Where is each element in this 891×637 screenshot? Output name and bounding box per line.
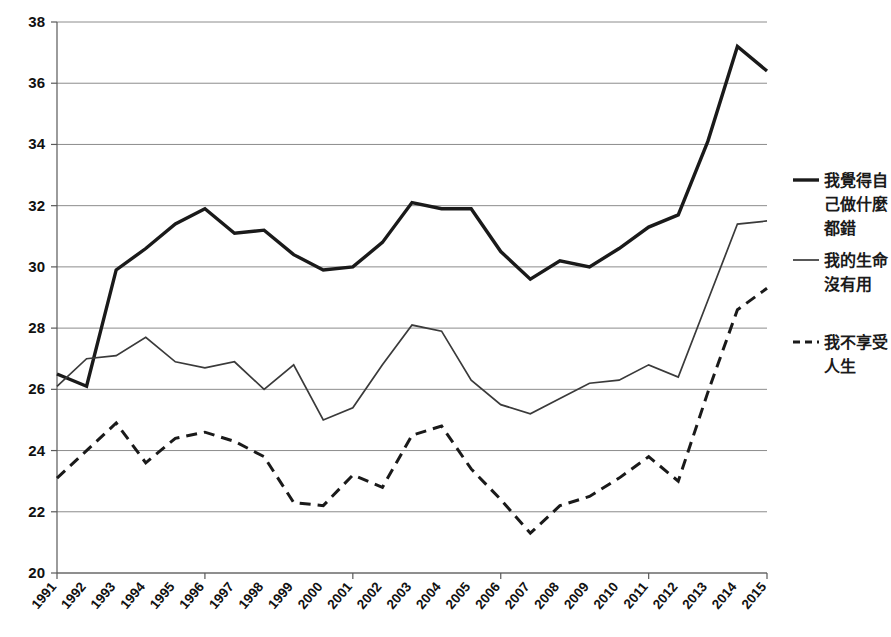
x-tick-label: 1999 bbox=[265, 579, 296, 612]
legend-label-2: 我的生命 bbox=[824, 251, 889, 270]
x-tick-label: 2014 bbox=[709, 579, 740, 612]
axes bbox=[51, 22, 767, 579]
series-line-2 bbox=[57, 221, 767, 420]
x-tick-label: 1997 bbox=[206, 579, 237, 612]
x-tick-label: 1996 bbox=[176, 579, 207, 612]
x-tick-label: 1994 bbox=[117, 579, 148, 612]
x-tick-label: 2005 bbox=[443, 579, 474, 612]
x-tick-label: 2006 bbox=[472, 579, 503, 612]
x-tick-label: 2008 bbox=[531, 579, 562, 612]
x-tick-label: 2015 bbox=[738, 579, 769, 612]
data-series bbox=[57, 46, 767, 533]
x-tick-label: 1992 bbox=[58, 579, 89, 612]
x-tick-label: 2013 bbox=[679, 579, 710, 612]
y-axis-tick-labels: 20222426283032343638 bbox=[28, 13, 45, 581]
legend-label-1: 己做什麼 bbox=[824, 195, 888, 214]
x-axis-tick-labels: 1991199219931994199519961997199819992000… bbox=[28, 579, 769, 612]
x-tick-label: 2010 bbox=[591, 579, 622, 612]
x-tick-label: 2009 bbox=[561, 579, 592, 612]
x-tick-label: 2012 bbox=[650, 579, 681, 612]
x-tick-label: 2002 bbox=[354, 579, 385, 612]
y-tick-label: 20 bbox=[28, 564, 45, 581]
legend-label-3: 人生 bbox=[824, 357, 856, 376]
y-tick-label: 36 bbox=[28, 74, 45, 91]
legend-label-1: 都錯 bbox=[823, 219, 856, 238]
x-tick-label: 2007 bbox=[502, 579, 533, 612]
y-tick-label: 38 bbox=[28, 13, 45, 30]
x-tick-label: 1991 bbox=[28, 579, 59, 612]
y-tick-label: 34 bbox=[28, 135, 45, 152]
y-tick-label: 30 bbox=[28, 258, 45, 275]
x-tick-label: 2011 bbox=[621, 579, 652, 611]
x-tick-label: 1993 bbox=[88, 579, 119, 612]
x-tick-label: 2001 bbox=[324, 579, 355, 612]
chart-root: 20222426283032343638 1991199219931994199… bbox=[0, 0, 891, 637]
x-tick-label: 2004 bbox=[413, 579, 444, 612]
legend-label-3: 我不享受 bbox=[824, 333, 888, 352]
chart-legend: 我覺得自己做什麼都錯我的生命沒有用我不享受人生 bbox=[793, 171, 889, 376]
y-tick-label: 32 bbox=[28, 197, 45, 214]
line-chart: 20222426283032343638 1991199219931994199… bbox=[0, 0, 891, 637]
gridlines bbox=[57, 22, 767, 573]
x-tick-label: 2003 bbox=[383, 579, 414, 612]
y-tick-label: 26 bbox=[28, 380, 45, 397]
y-tick-label: 28 bbox=[28, 319, 45, 336]
legend-label-2: 沒有用 bbox=[824, 275, 872, 294]
x-tick-label: 1995 bbox=[147, 579, 178, 612]
x-tick-label: 2000 bbox=[295, 579, 326, 612]
series-line-1 bbox=[57, 46, 767, 386]
y-tick-label: 22 bbox=[28, 503, 45, 520]
y-tick-label: 24 bbox=[28, 442, 45, 459]
x-tick-label: 1998 bbox=[236, 579, 267, 612]
legend-label-1: 我覺得自 bbox=[824, 171, 888, 190]
